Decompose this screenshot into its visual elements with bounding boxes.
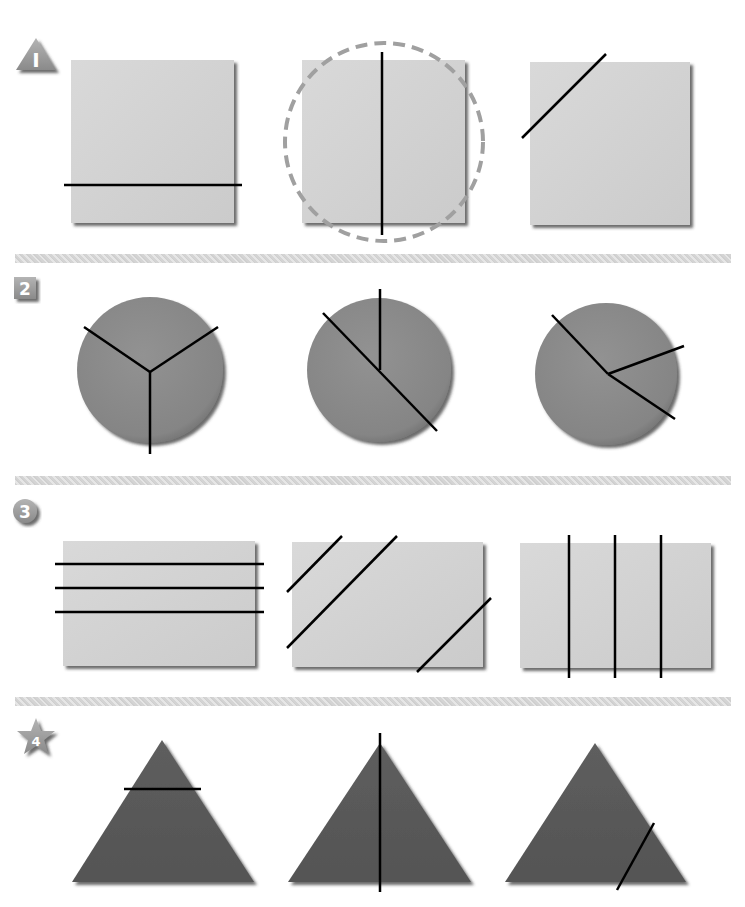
- rectangle-diagonal-cuts[interactable]: [287, 536, 491, 672]
- circle-three-unequal-parts[interactable]: [535, 303, 684, 445]
- square-badge-icon: 2: [14, 277, 36, 299]
- square-horizontal-cut[interactable]: [64, 60, 242, 223]
- svg-text:2: 2: [19, 279, 31, 299]
- section-2: 2: [14, 277, 684, 454]
- square-diagonal-corner-cut[interactable]: [522, 54, 690, 225]
- section-1: I: [16, 38, 690, 241]
- square-vertical-cut-highlighted[interactable]: [285, 43, 483, 241]
- star-badge-icon: 4: [17, 718, 55, 754]
- triangle-vertical-cut[interactable]: [288, 733, 471, 892]
- shapes-canvas: I 2: [0, 0, 745, 907]
- rectangle-horizontal-cuts[interactable]: [55, 541, 264, 666]
- svg-text:4: 4: [31, 734, 40, 749]
- section-3: 3: [13, 499, 711, 678]
- svg-text:I: I: [32, 48, 39, 72]
- rectangle-vertical-cuts[interactable]: [520, 535, 711, 678]
- circle-diameter-and-radius[interactable]: [307, 289, 451, 442]
- triangle-corner-cut[interactable]: [505, 743, 686, 890]
- circle-badge-icon: 3: [13, 499, 37, 523]
- warning-triangle-badge-icon: I: [16, 38, 56, 72]
- section-4: 4: [17, 718, 686, 892]
- worksheet-page: I 2: [0, 0, 745, 907]
- circle-three-equal-parts[interactable]: [77, 297, 223, 454]
- svg-text:3: 3: [19, 502, 31, 522]
- triangle-horizontal-cut[interactable]: [72, 740, 254, 882]
